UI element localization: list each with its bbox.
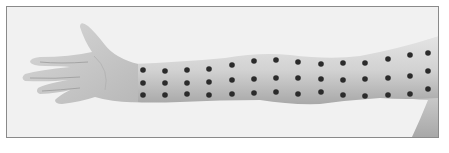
marker-dot — [251, 90, 257, 96]
marker-dot — [362, 93, 368, 99]
marker-dot — [385, 56, 391, 62]
marker-dot — [140, 80, 146, 86]
marker-dot — [184, 91, 190, 97]
marker-dot — [140, 92, 146, 98]
marker-dot — [140, 67, 146, 73]
marker-dot — [162, 80, 168, 86]
marker-dot — [295, 75, 301, 81]
marker-dot — [273, 75, 279, 81]
marker-dot — [385, 75, 391, 81]
palm — [23, 23, 139, 104]
marker-dot — [162, 68, 168, 74]
marker-dot — [295, 59, 301, 65]
marker-dot — [425, 50, 431, 56]
marker-dot — [206, 66, 212, 72]
marker-dot — [184, 67, 190, 73]
marker-dot — [340, 60, 346, 66]
marker-dot — [273, 57, 279, 63]
marker-dot — [340, 92, 346, 98]
marker-dot — [407, 73, 413, 79]
marker-dot — [425, 68, 431, 74]
marker-dot — [229, 62, 235, 68]
marker-dot — [229, 91, 235, 97]
marker-dot — [385, 92, 391, 98]
marker-dot — [340, 77, 346, 83]
marker-dot — [206, 92, 212, 98]
marker-dot — [318, 76, 324, 82]
marker-dot — [318, 61, 324, 67]
marker-dot — [295, 91, 301, 97]
marker-dot — [407, 91, 413, 97]
marker-dot — [251, 58, 257, 64]
marker-dot — [318, 89, 324, 95]
marker-dot — [229, 77, 235, 83]
marker-dot — [362, 60, 368, 66]
marker-dot — [425, 86, 431, 92]
marker-dot — [184, 80, 190, 86]
forearm — [132, 36, 440, 104]
marker-dot — [407, 52, 413, 58]
marker-dot — [251, 76, 257, 82]
marker-dot — [273, 89, 279, 95]
marker-dot — [162, 92, 168, 98]
arm-photo — [0, 0, 449, 153]
marker-dot — [362, 76, 368, 82]
marker-dot — [206, 79, 212, 85]
